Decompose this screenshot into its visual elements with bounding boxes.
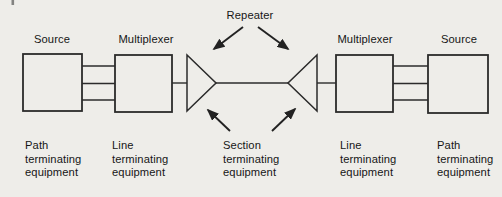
path-left-line3: equipment	[25, 166, 79, 178]
line-terminating-right-label: Line terminating equipment	[340, 139, 396, 178]
path-left-line2: terminating	[25, 153, 81, 165]
line-right-line3: equipment	[340, 166, 394, 178]
scan-artifact	[12, 0, 15, 5]
line-left-line1: Line	[112, 139, 134, 151]
multiplexer-left-label: Multiplexer	[118, 33, 173, 45]
arrow-up-right-icon	[272, 109, 295, 131]
path-terminating-left-label: Path terminating equipment	[25, 139, 81, 178]
section-terminating-label: Section terminating equipment	[223, 139, 279, 178]
path-right-line2: terminating	[437, 153, 493, 165]
source-left-label: Source	[34, 33, 70, 45]
arrow-down-left-icon	[214, 27, 243, 49]
repeater-amplifier-triangle-left	[187, 55, 216, 111]
multiplexer-left-box	[115, 55, 172, 112]
arrow-down-right-icon	[258, 27, 288, 49]
source-left-box	[23, 54, 82, 111]
multiplexer-right-label: Multiplexer	[337, 33, 392, 45]
network-termination-diagram: Repeater Source Multiplexer Multiplexer …	[0, 0, 502, 197]
source-right-box	[428, 55, 488, 113]
source-right-label: Source	[441, 33, 477, 45]
repeater-label: Repeater	[227, 9, 274, 21]
line-right-line1: Line	[340, 139, 362, 151]
line-terminating-left-label: Line terminating equipment	[112, 139, 168, 178]
line-right-line2: terminating	[340, 153, 396, 165]
section-line2: terminating	[223, 153, 279, 165]
arrow-up-left-icon	[208, 110, 230, 131]
path-right-line3: equipment	[437, 166, 491, 178]
section-line3: equipment	[223, 166, 277, 178]
line-left-line2: terminating	[112, 153, 168, 165]
diagram-canvas: Repeater Source Multiplexer Multiplexer …	[0, 0, 502, 197]
repeater-amplifier-triangle-right	[288, 55, 317, 111]
multiplexer-right-box	[336, 55, 393, 112]
path-left-line1: Path	[25, 139, 48, 151]
section-line1: Section	[223, 139, 261, 151]
path-terminating-right-label: Path terminating equipment	[437, 139, 493, 178]
path-right-line1: Path	[437, 139, 460, 151]
line-left-line3: equipment	[112, 166, 166, 178]
